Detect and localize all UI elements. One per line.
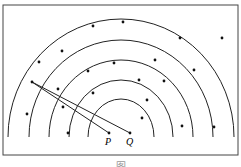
dot (213, 126, 216, 129)
dot (154, 59, 157, 62)
dot (92, 25, 95, 28)
dot (163, 80, 166, 83)
dot (62, 106, 65, 109)
dot (179, 37, 182, 40)
point-labels: PQ (104, 136, 134, 147)
dot (146, 99, 149, 102)
dot (221, 37, 224, 40)
line-segments (32, 82, 130, 133)
dot (87, 70, 90, 73)
dot (138, 79, 141, 82)
dot (122, 21, 125, 24)
arc-1 (88, 99, 154, 137)
arc-5 (8, 19, 234, 137)
dot (31, 81, 34, 84)
label-P: P (104, 136, 111, 147)
dot (181, 125, 184, 128)
dot (57, 88, 60, 91)
arc-4 (29, 40, 213, 137)
dot (193, 69, 196, 72)
figure-caption: 图 (0, 158, 241, 167)
dot (26, 113, 29, 116)
dot (61, 50, 64, 53)
dot (108, 132, 111, 135)
dot (67, 132, 70, 135)
dot (141, 117, 144, 120)
semicircle-arcs (8, 19, 234, 137)
segment-AQ (32, 82, 130, 133)
concentric-arcs-diagram: PQ (0, 0, 241, 167)
dot (129, 132, 132, 135)
dot (113, 62, 116, 65)
label-Q: Q (126, 136, 134, 147)
dot (92, 92, 95, 95)
dot (38, 61, 41, 64)
